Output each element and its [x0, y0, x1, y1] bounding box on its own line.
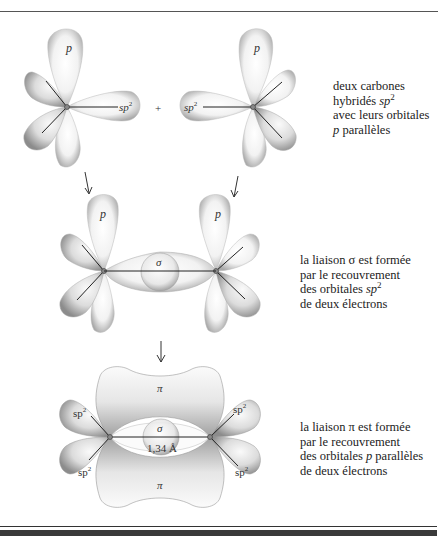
bond-length-label: 1,34 Å: [147, 442, 177, 454]
step2-right-p-label: p: [214, 207, 221, 221]
arrow-down-icon: [231, 176, 238, 197]
caption-line: avec leurs orbitales: [333, 108, 429, 123]
step1-caption: deux carbones hybridés sp2 avec leurs or…: [333, 79, 429, 137]
caption-line: la liaison σ est formée: [300, 253, 411, 268]
step3-caption: la liaison π est formée par le recouvrem…: [300, 420, 423, 478]
caption-line: de deux électrons: [300, 297, 411, 312]
arrow-down-icon: [85, 172, 92, 194]
bottom-rule-thick: [0, 530, 437, 536]
step2-left-carbon: [60, 195, 118, 333]
step3-pi-top-label: π: [157, 382, 163, 394]
step3-sp2-label-bottom-left: sp2: [78, 465, 92, 478]
caption-line: hybridés sp2: [333, 94, 429, 109]
caption-line: par le recouvrement: [300, 268, 411, 283]
step2-sigma-label: σ: [156, 256, 162, 268]
plus-sign: +: [155, 102, 161, 114]
caption-line: des orbitales p parallèles: [300, 449, 423, 464]
caption-line: deux carbones: [333, 79, 429, 94]
step1-left-p-label: p: [65, 41, 72, 55]
step3-sp2-label-bottom-right: sp2: [235, 465, 249, 478]
caption-line: p parallèles: [333, 123, 429, 138]
caption-line: par le recouvrement: [300, 435, 423, 450]
arrow-down-icon: [157, 341, 165, 362]
carbon-atom: [108, 435, 113, 440]
step1-left-carbon: [24, 29, 140, 167]
carbon-atom: [208, 435, 213, 440]
bottom-rule-thin: [0, 526, 437, 527]
step2-caption: la liaison σ est formée par le recouvrem…: [300, 253, 411, 311]
step1-right-p-label: p: [253, 41, 260, 55]
step1-right-carbon: [180, 29, 296, 167]
step3-sigma-label: σ: [157, 422, 163, 434]
caption-line: la liaison π est formée: [300, 420, 423, 435]
caption-line: de deux électrons: [300, 464, 423, 479]
step3-pi-bottom-label: π: [157, 479, 163, 491]
caption-line: des orbitales sp2: [300, 282, 411, 297]
step2-left-p-label: p: [99, 207, 106, 221]
